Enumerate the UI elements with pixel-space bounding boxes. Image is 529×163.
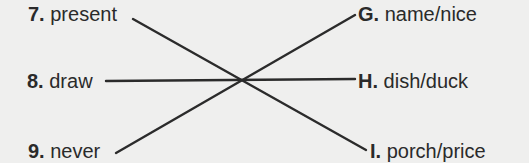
line-draw-to-dish-duck	[106, 79, 355, 81]
item-words: dish/duck	[384, 70, 469, 92]
item-word: never	[50, 140, 100, 162]
right-item-h[interactable]: H. dish/duck	[358, 70, 468, 92]
item-word: draw	[49, 70, 92, 92]
item-letter: G.	[358, 3, 379, 25]
item-number: 7.	[28, 3, 45, 25]
right-item-i[interactable]: I. porch/price	[370, 140, 486, 162]
item-words: name/nice	[385, 3, 477, 25]
right-item-g[interactable]: G. name/nice	[358, 3, 477, 25]
item-letter: I.	[370, 140, 381, 162]
item-number: 8.	[27, 70, 44, 92]
line-never-to-name-nice	[116, 15, 355, 153]
item-letter: H.	[358, 70, 378, 92]
item-number: 9.	[28, 140, 45, 162]
item-words: porch/price	[387, 140, 486, 162]
left-item-8[interactable]: 8. draw	[27, 70, 93, 92]
left-item-7[interactable]: 7. present	[28, 3, 117, 25]
line-present-to-porch-price	[133, 19, 366, 150]
left-item-9[interactable]: 9. never	[28, 140, 100, 162]
item-word: present	[50, 3, 117, 25]
